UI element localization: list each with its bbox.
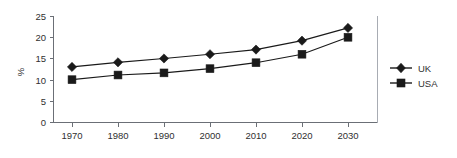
diamond-icon [297,36,306,45]
x-tick-label-2010: 2010 [245,130,266,141]
x-tick-label-1980: 1980 [107,130,128,141]
x-tick-label-2020: 2020 [291,130,312,141]
diamond-icon [113,58,122,67]
y-tick-label-5: 5 [41,96,46,107]
square-icon [114,71,122,79]
square-icon [298,50,306,58]
legend-item-usa[interactable]: USA [390,78,438,89]
diamond-icon [343,23,352,32]
diamond-icon [205,50,214,59]
data-series-layer [67,23,352,83]
series-uk [67,23,352,71]
diamond-icon [397,63,406,73]
y-axis-ticks [50,17,54,123]
x-tick-label-2030: 2030 [337,130,358,141]
x-tick-label-1970: 1970 [61,130,82,141]
diamond-icon [159,54,168,63]
y-tick-label-25: 25 [35,11,46,22]
diamond-icon [251,45,260,54]
y-tick-label-10: 10 [35,75,46,86]
chart-canvas: 25 20 15 10 5 0 % 1970 1980 1990 2000 20… [0,0,457,158]
x-axis-ticks [73,123,349,127]
square-icon [160,69,168,77]
legend-item-uk[interactable]: UK [390,63,432,74]
y-axis-title: % [15,67,26,76]
x-tick-label-1990: 1990 [153,130,174,141]
x-tick-label-2000: 2000 [199,130,220,141]
diamond-icon [67,62,76,71]
square-icon [397,79,405,87]
legend-label-usa: USA [418,78,438,89]
square-icon [68,76,76,84]
square-icon [344,33,352,41]
chart-legend: UK USA [390,63,438,89]
y-tick-label-20: 20 [35,32,46,43]
line-chart-figure: 25 20 15 10 5 0 % 1970 1980 1990 2000 20… [0,0,457,158]
series-line-uk [72,28,348,67]
legend-label-uk: UK [418,63,432,74]
y-tick-label-15: 15 [35,53,46,64]
square-icon [252,59,260,67]
square-icon [206,65,214,73]
y-tick-label-0: 0 [41,117,46,128]
